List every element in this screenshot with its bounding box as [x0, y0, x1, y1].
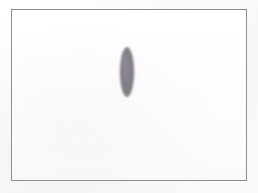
canvas-frame[interactable] [11, 9, 247, 181]
vertical-ellipse-shape[interactable] [120, 47, 134, 97]
canvas-scene [0, 0, 258, 193]
